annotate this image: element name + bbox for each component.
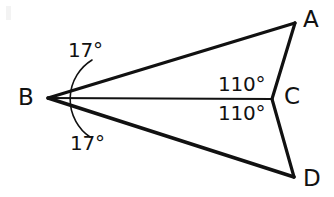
segment-BC <box>48 98 272 99</box>
vertex-label-c: C <box>284 85 300 108</box>
angle-label-bcd: 110° <box>218 103 265 123</box>
vertex-label-d: D <box>303 167 321 190</box>
angle-label-dbc: 17° <box>70 133 105 153</box>
angle-label-bca: 110° <box>218 74 265 94</box>
geometry-figure: A B C D 17° 17° 110° 110° <box>0 0 334 197</box>
vertex-label-b: B <box>18 86 34 109</box>
segment-CD <box>272 99 294 177</box>
vertex-label-a: A <box>303 8 319 31</box>
angle-label-abc: 17° <box>68 40 103 60</box>
